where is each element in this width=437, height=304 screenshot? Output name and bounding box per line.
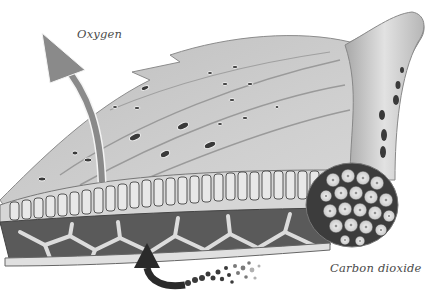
leaf-illustration (0, 0, 437, 304)
midrib-vein (345, 12, 424, 180)
leaf-diagram: Oxygen Carbon dioxide (0, 0, 437, 304)
oxygen-label: Oxygen (77, 27, 122, 41)
vascular-bundle (306, 163, 398, 247)
carbon-dioxide-label: Carbon dioxide (330, 261, 422, 275)
